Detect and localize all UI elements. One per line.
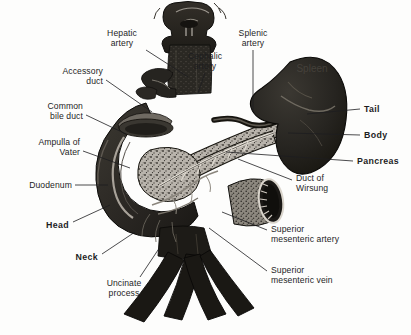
label-accessory-duct: Accessory duct [0, 67, 103, 86]
label-duodenum: Duodenum [0, 181, 72, 191]
label-neck: Neck [0, 253, 98, 263]
duodenum-cut-cylinder [228, 178, 286, 226]
anatomy-figure: Spleen Hepatic arteryAccessory ductCom [0, 0, 411, 335]
label-common-bile-duct: Common bile duct [0, 102, 83, 121]
spleen-overlay-text: Spleen [296, 63, 327, 74]
label-duct-of-wirsung: Duct of Wirsung [296, 174, 328, 193]
label-head: Head [0, 221, 69, 231]
label-hepatic-artery: Hepatic artery [62, 29, 182, 48]
label-pancreas: Pancreas [357, 157, 399, 167]
label-splenic-artery: Splenic artery [193, 29, 313, 48]
label-tail: Tail [364, 105, 380, 115]
label-ampulla-of-vater: Ampulla of Vater [0, 138, 80, 157]
label-cephalic-artery: Cephalic artery [145, 52, 265, 71]
label-body: Body [364, 131, 387, 141]
label-uncinate-process: Uncinate process [64, 279, 184, 298]
spleen: Spleen [250, 57, 346, 174]
label-superior-mesenteric-artery: Superior mesenteric artery [271, 225, 339, 244]
label-superior-mesenteric-vein: Superior mesenteric vein [271, 266, 333, 285]
mesenteric-vessels [124, 226, 254, 322]
